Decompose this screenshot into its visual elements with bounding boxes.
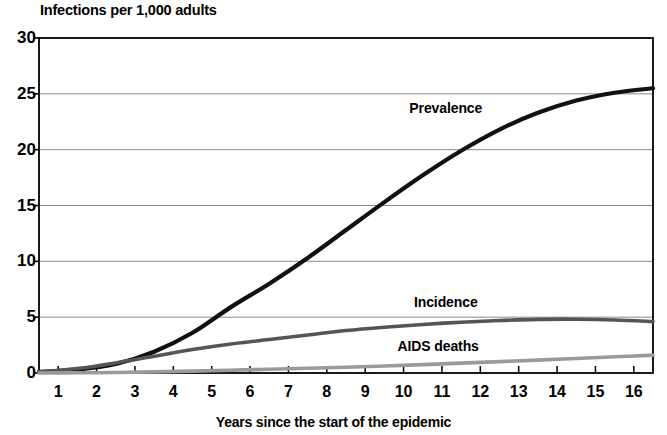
x-tick-label: 5: [196, 384, 228, 400]
gridlines: [39, 94, 653, 317]
x-tick-label: 11: [426, 384, 458, 400]
series-line-incidence: [39, 319, 653, 372]
x-tick-label: 12: [464, 384, 496, 400]
x-tick-label: 13: [503, 384, 535, 400]
x-tick-label: 15: [579, 384, 611, 400]
series-label-prevalence: Prevalence: [409, 100, 482, 116]
x-tick-label: 6: [234, 384, 266, 400]
x-axis-caption: Years since the start of the epidemic: [0, 414, 667, 430]
x-tick-label: 10: [388, 384, 420, 400]
series-label-aids-deaths: AIDS deaths: [397, 338, 478, 354]
x-tick-label: 8: [311, 384, 343, 400]
x-tick-label: 9: [349, 384, 381, 400]
series-label-incidence: Incidence: [414, 294, 478, 310]
x-tick-label: 16: [618, 384, 650, 400]
series-lines: [39, 88, 653, 373]
x-tick-label: 14: [541, 384, 573, 400]
chart-container: Infections per 1,000 adults 051015202530…: [0, 0, 667, 435]
x-tick-label: 1: [42, 384, 74, 400]
x-axis-labels: 12345678910111213141516: [0, 384, 667, 410]
x-tick-label: 2: [81, 384, 113, 400]
x-tick-label: 7: [272, 384, 304, 400]
x-tick-label: 3: [119, 384, 151, 400]
x-tick-label: 4: [157, 384, 189, 400]
plot-area: [0, 0, 667, 435]
